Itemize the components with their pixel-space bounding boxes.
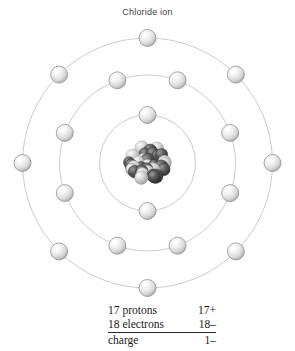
electron-shell2-6 xyxy=(222,185,239,202)
chloride-ion-figure: Chloride ion xyxy=(0,0,295,351)
table-row: 18 electrons18– xyxy=(108,318,216,333)
electron-shell2-2 xyxy=(169,72,186,89)
table-row: charge1– xyxy=(108,333,216,349)
proton-sphere xyxy=(135,171,148,184)
neutron-sphere xyxy=(148,170,161,183)
electron-shell2-4 xyxy=(222,124,239,141)
electron-shell3-1 xyxy=(139,30,156,47)
particle-count-table: 17 protons17+18 electrons18–charge1– xyxy=(108,304,216,348)
electron-shell2-5 xyxy=(56,185,73,202)
electron-shell3-6 xyxy=(51,243,68,260)
table-row: 17 protons17+ xyxy=(108,304,216,318)
nucleus xyxy=(123,141,171,185)
electron-shell3-5 xyxy=(264,155,281,172)
electron-shell2-1 xyxy=(109,72,126,89)
electron-shell1-2 xyxy=(139,203,156,220)
electron-shell3-2 xyxy=(51,66,68,83)
electron-shell2-8 xyxy=(169,237,186,254)
electron-shell1-1 xyxy=(139,107,156,124)
atom-diagram xyxy=(0,22,295,304)
electron-shell3-4 xyxy=(14,155,31,172)
electron-shell3-3 xyxy=(227,66,244,83)
electron-shell2-7 xyxy=(109,237,126,254)
row-value: 17+ xyxy=(182,304,216,318)
row-label: 18 electrons xyxy=(108,318,182,333)
electron-shell3-8 xyxy=(139,280,156,297)
atom-svg xyxy=(0,22,295,304)
row-label: 17 protons xyxy=(108,304,182,318)
row-label: charge xyxy=(108,333,182,349)
electron-shell2-3 xyxy=(56,124,73,141)
row-value: 1– xyxy=(182,333,216,349)
electron-shell3-7 xyxy=(227,243,244,260)
figure-title: Chloride ion xyxy=(0,6,295,18)
row-value: 18– xyxy=(182,318,216,333)
